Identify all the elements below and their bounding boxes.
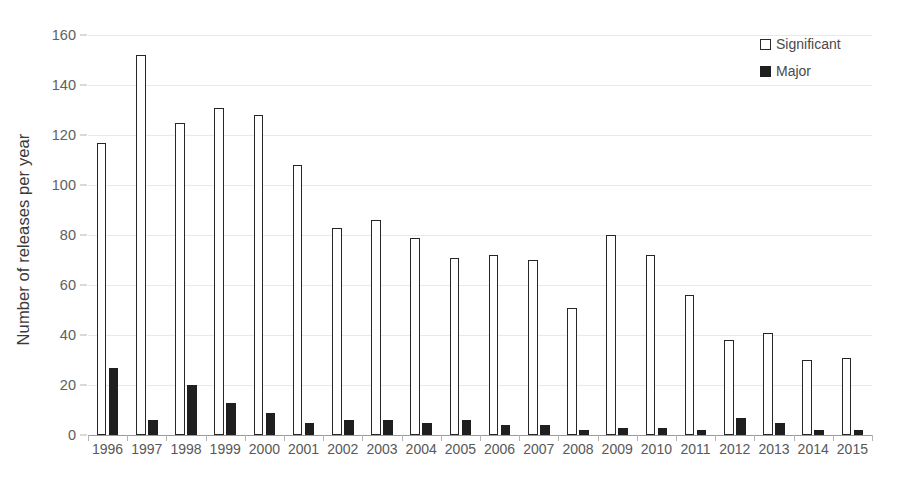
bar-group: [598, 35, 637, 435]
bar-major-2009: [618, 428, 628, 436]
bar-significant-2012: [724, 340, 734, 435]
bar-major-1996: [109, 368, 119, 436]
bar-major-2006: [501, 425, 511, 435]
legend-swatch-icon: [760, 39, 771, 50]
x-tick-label: 2013: [758, 441, 789, 457]
x-tick-label: 2012: [719, 441, 750, 457]
x-tick-label: 2010: [641, 441, 672, 457]
bar-group: [441, 35, 480, 435]
y-tick-label: 160: [0, 27, 76, 43]
bar-significant-2000: [254, 115, 264, 435]
bar-significant-2013: [763, 333, 773, 436]
plot-area: [88, 35, 872, 435]
bar-major-2010: [658, 428, 668, 436]
legend-label: Major: [776, 63, 811, 79]
bars-layer: [88, 35, 872, 435]
bar-group: [323, 35, 362, 435]
x-tick-mark: [480, 435, 481, 441]
y-tick-mark: [80, 35, 87, 36]
x-tick-mark: [323, 435, 324, 441]
bar-group: [206, 35, 245, 435]
x-tick-label: 2007: [523, 441, 554, 457]
x-tick-mark: [872, 435, 873, 441]
y-tick-label: 20: [0, 377, 76, 393]
x-tick-label: 2009: [602, 441, 633, 457]
bar-group: [88, 35, 127, 435]
bar-group: [794, 35, 833, 435]
bar-significant-2005: [450, 258, 460, 436]
x-tick-mark: [519, 435, 520, 441]
x-tick-mark: [558, 435, 559, 441]
bar-group: [402, 35, 441, 435]
x-tick-label: 2011: [681, 441, 711, 457]
legend-item-major[interactable]: Major: [760, 63, 880, 79]
x-tick-label: 1996: [92, 441, 123, 457]
bar-group: [558, 35, 597, 435]
x-tick-label: 1998: [170, 441, 201, 457]
bar-major-2013: [775, 423, 785, 436]
y-tick-mark: [80, 285, 87, 286]
bar-significant-2008: [567, 308, 577, 436]
bar-significant-1999: [214, 108, 224, 436]
legend-item-significant[interactable]: Significant: [760, 36, 880, 52]
x-tick-label: 1999: [210, 441, 241, 457]
x-tick-mark: [715, 435, 716, 441]
bar-major-2003: [383, 420, 393, 435]
bar-significant-2014: [802, 360, 812, 435]
x-tick-mark: [284, 435, 285, 441]
bar-group: [754, 35, 793, 435]
y-tick-mark: [80, 135, 87, 136]
bar-major-2012: [736, 418, 746, 436]
y-tick-label: 100: [0, 177, 76, 193]
bar-significant-1998: [175, 123, 185, 436]
bar-significant-2015: [842, 358, 852, 436]
x-tick-mark: [441, 435, 442, 441]
bar-major-2008: [579, 430, 589, 435]
chart-legend: SignificantMajor: [760, 36, 880, 90]
bar-significant-2007: [528, 260, 538, 435]
bar-group: [676, 35, 715, 435]
x-tick-label: 2005: [445, 441, 476, 457]
bar-major-2011: [697, 430, 707, 435]
bar-significant-2010: [646, 255, 656, 435]
x-tick-label: 2014: [798, 441, 829, 457]
legend-label: Significant: [776, 36, 841, 52]
bar-major-2002: [344, 420, 354, 435]
y-tick-mark: [80, 435, 87, 436]
x-tick-mark: [598, 435, 599, 441]
y-tick-mark: [80, 185, 87, 186]
bar-significant-2009: [606, 235, 616, 435]
legend-swatch-icon: [760, 66, 771, 77]
bar-group: [480, 35, 519, 435]
bar-chart: Number of releases per year 020406080100…: [0, 0, 897, 479]
y-tick-mark: [80, 385, 87, 386]
y-tick-label: 0: [0, 427, 76, 443]
bar-group: [284, 35, 323, 435]
bar-group: [166, 35, 205, 435]
bar-group: [637, 35, 676, 435]
y-tick-label: 60: [0, 277, 76, 293]
bar-major-1999: [226, 403, 236, 436]
bar-significant-1996: [97, 143, 107, 436]
bar-major-2001: [305, 423, 315, 436]
bar-significant-1997: [136, 55, 146, 435]
bar-group: [127, 35, 166, 435]
bar-significant-2001: [293, 165, 303, 435]
x-tick-mark: [362, 435, 363, 441]
x-tick-mark: [794, 435, 795, 441]
y-tick-mark: [80, 235, 87, 236]
bar-major-1998: [187, 385, 197, 435]
bar-group: [245, 35, 284, 435]
y-tick-label: 120: [0, 127, 76, 143]
x-tick-mark: [127, 435, 128, 441]
y-tick-label: 40: [0, 327, 76, 343]
bar-significant-2006: [489, 255, 499, 435]
y-tick-mark: [80, 85, 87, 86]
x-tick-label: 2006: [484, 441, 515, 457]
y-tick-label: 140: [0, 77, 76, 93]
bar-major-2004: [422, 423, 432, 436]
x-tick-mark: [402, 435, 403, 441]
y-axis-ticks: 020406080100120140160: [0, 35, 80, 435]
x-tick-mark: [676, 435, 677, 441]
bar-group: [833, 35, 872, 435]
